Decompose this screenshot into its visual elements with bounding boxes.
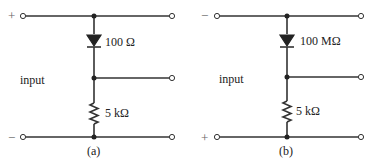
input-label-a: input [20, 73, 45, 87]
junction-dot [92, 14, 97, 19]
terminal-icon [169, 13, 174, 18]
circuit-b: − + 100 MΩ 5 kΩ input (b) [201, 8, 364, 158]
terminal-icon [214, 13, 219, 18]
terminal-icon [214, 134, 219, 139]
circuit-a: + − 100 Ω 5 kΩ input (a) [8, 8, 175, 158]
junction-dot [285, 14, 290, 19]
terminal-icon [169, 75, 174, 80]
terminal-icon [358, 134, 363, 139]
terminal-icon [20, 13, 25, 18]
bottom-polarity-sign-b: + [201, 130, 208, 145]
diode-label-a: 100 Ω [105, 35, 135, 49]
terminal-icon [358, 74, 363, 79]
diode-label-b: 100 MΩ [300, 34, 341, 48]
resistor-label-a: 5 kΩ [105, 106, 129, 120]
resistor-label-b: 5 kΩ [296, 104, 320, 118]
junction-dot [285, 75, 290, 80]
resistor-icon-a [90, 103, 98, 124]
input-label-b: input [219, 72, 244, 86]
junction-dot [285, 135, 290, 140]
top-polarity-sign-b: − [201, 8, 208, 23]
top-polarity-sign-a: + [8, 8, 15, 23]
resistor-icon-b [283, 101, 291, 122]
terminal-icon [169, 134, 174, 139]
diode-icon-b [280, 35, 294, 47]
caption-b: (b) [279, 144, 293, 158]
junction-dot [92, 76, 97, 81]
junction-dot [92, 135, 97, 140]
bottom-polarity-sign-a: − [8, 130, 15, 145]
caption-a: (a) [87, 144, 100, 158]
terminal-icon [20, 134, 25, 139]
diode-icon-a [87, 35, 101, 47]
circuit-diagram: + − 100 Ω 5 kΩ input (a) [0, 0, 372, 161]
terminal-icon [358, 13, 363, 18]
